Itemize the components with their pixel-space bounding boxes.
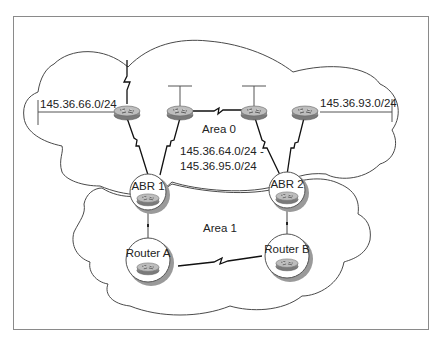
node-router-a[interactable]: Router A <box>126 238 174 286</box>
serial-routera-routerb <box>178 256 262 266</box>
figure-frame <box>14 17 429 330</box>
area0-label: Area 0 <box>202 123 236 135</box>
node-abr2[interactable]: ABR 2 <box>269 172 309 212</box>
area1-label: Area 1 <box>203 222 237 234</box>
router-a-label: Router A <box>126 247 171 259</box>
stub-r2 <box>168 86 192 106</box>
router-icon <box>137 194 159 206</box>
router-icon <box>276 192 298 204</box>
router-b-label: Router B <box>264 243 310 255</box>
serial-r4-abr2 <box>287 118 304 175</box>
router-icon <box>137 263 159 275</box>
node-router-b[interactable]: Router B <box>264 234 313 282</box>
ospf-diagram: ABR 1 ABR 2 Router A Router B 145.36.66.… <box>0 0 444 344</box>
serial-uplink-r1 <box>124 60 130 104</box>
router-icon[interactable] <box>292 106 318 120</box>
router-icon[interactable] <box>241 106 267 120</box>
abr1-label: ABR 1 <box>131 180 164 192</box>
router-icon[interactable] <box>114 106 140 120</box>
network-label-right: 145.36.93.0/24 <box>320 97 397 109</box>
router-icon <box>276 259 298 271</box>
serial-r1-abr1 <box>127 118 148 175</box>
serial-r2-abr1 <box>160 118 180 175</box>
serial-r2-r3 <box>193 108 242 114</box>
node-abr1[interactable]: ABR 1 <box>130 174 170 214</box>
area0-summary-line2: 145.36.95.0/24 <box>180 160 257 172</box>
abr2-label: ABR 2 <box>270 178 303 190</box>
router-icon[interactable] <box>167 106 193 120</box>
area1-cloud <box>73 179 370 315</box>
stub-r3 <box>242 86 266 106</box>
network-label-left: 145.36.66.0/24 <box>40 98 117 110</box>
area0-summary-line1: 145.36.64.0/24 - <box>180 145 264 157</box>
